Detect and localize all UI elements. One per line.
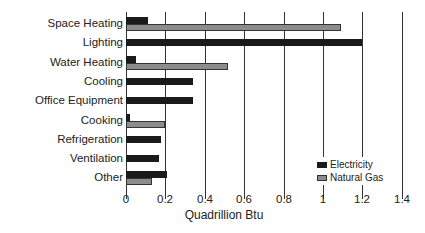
legend-item-electricity: Electricity	[317, 158, 383, 171]
legend-label: Electricity	[330, 159, 373, 170]
category-label: Other	[94, 170, 123, 184]
x-axis-label: Quadrillion Btu	[185, 208, 264, 222]
x-tick-label: 1	[320, 193, 326, 205]
electricity-bar	[126, 155, 159, 162]
x-tick-label: 0.8	[276, 193, 292, 205]
category-label: Ventilation	[70, 151, 123, 165]
category-label: Cooking	[81, 113, 123, 127]
category-label: Lighting	[83, 35, 123, 49]
category-label: Office Equipment	[35, 93, 123, 107]
natural-gas-bar	[126, 121, 165, 128]
electricity-bar	[126, 17, 148, 24]
legend-item-natural-gas: Natural Gas	[317, 171, 383, 184]
x-tick-label: 0.4	[197, 193, 213, 205]
natural-gas-swatch	[317, 175, 327, 181]
natural-gas-bar	[126, 63, 228, 70]
x-tick-label: 0.6	[236, 193, 252, 205]
natural-gas-bar	[126, 178, 152, 185]
electricity-bar	[126, 114, 130, 121]
legend: ElectricityNatural Gas	[315, 157, 385, 185]
x-tick-label: 0	[123, 193, 129, 205]
category-label: Water Heating	[50, 55, 123, 69]
category-label: Refrigeration	[57, 132, 123, 146]
electricity-bar	[126, 136, 161, 143]
legend-label: Natural Gas	[330, 172, 383, 183]
electricity-bar	[126, 39, 362, 46]
x-tick-label: 1.4	[394, 193, 410, 205]
category-label: Space Heating	[48, 16, 123, 30]
electricity-bar	[126, 78, 193, 85]
category-label: Cooling	[84, 74, 123, 88]
electricity-swatch	[317, 162, 327, 168]
bar-chart: 00.20.40.60.811.21.4Space HeatingLightin…	[0, 0, 425, 233]
x-tick-label: 0.2	[157, 193, 173, 205]
electricity-bar	[126, 97, 193, 104]
x-tick-label: 1.2	[354, 193, 370, 205]
gridline	[402, 12, 403, 199]
natural-gas-bar	[126, 24, 341, 31]
electricity-bar	[126, 171, 167, 178]
electricity-bar	[126, 56, 136, 63]
